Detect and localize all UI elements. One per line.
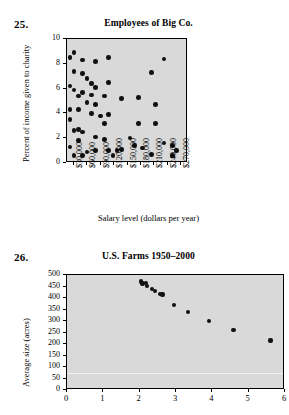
x-tick-label: $120,000 bbox=[116, 138, 124, 168]
x-tick-mark bbox=[66, 389, 67, 392]
y-tick-label: 450 bbox=[36, 282, 60, 290]
x-tick-label: $90,000 bbox=[103, 142, 111, 168]
x-tick-mark bbox=[175, 389, 176, 392]
x-tick-label: $240,000 bbox=[170, 138, 178, 168]
data-point bbox=[149, 70, 154, 75]
y-tick-mark bbox=[63, 332, 66, 333]
y-tick-mark bbox=[63, 366, 66, 367]
data-point bbox=[93, 102, 98, 107]
x-tick-label: 4 bbox=[196, 394, 226, 403]
x-tick-label: $30,000 bbox=[76, 142, 84, 168]
data-point bbox=[80, 90, 85, 95]
x-tick-label: 2 bbox=[124, 394, 154, 403]
x-tick-mark bbox=[102, 389, 103, 392]
data-point bbox=[207, 319, 211, 323]
data-point bbox=[80, 58, 85, 63]
y-tick-label: 6 bbox=[36, 84, 60, 92]
data-point bbox=[153, 289, 157, 293]
x-tick-mark bbox=[284, 389, 285, 392]
data-point bbox=[153, 121, 158, 126]
x-tick-mark bbox=[113, 162, 114, 165]
x-tick-label: $270,000 bbox=[183, 138, 191, 168]
y-tick-mark bbox=[63, 38, 66, 39]
data-point bbox=[119, 96, 124, 101]
x-tick-mark bbox=[86, 162, 87, 165]
data-point bbox=[89, 93, 94, 98]
data-point bbox=[136, 95, 141, 100]
x-tick-label: 6 bbox=[269, 394, 289, 403]
x-tick-mark bbox=[211, 389, 212, 392]
x-axis-title-25: Salary level (dollars per year) bbox=[56, 214, 241, 223]
y-tick-label: 0 bbox=[36, 158, 60, 166]
data-point bbox=[80, 130, 85, 135]
data-point bbox=[102, 94, 107, 99]
x-tick-mark bbox=[139, 389, 140, 392]
data-point bbox=[106, 55, 111, 60]
x-tick-label: $180,000 bbox=[143, 138, 151, 168]
data-point bbox=[145, 284, 149, 288]
y-tick-label: 500 bbox=[36, 270, 60, 278]
data-point bbox=[136, 121, 141, 126]
x-tick-mark bbox=[73, 162, 74, 165]
x-tick-mark bbox=[140, 162, 141, 165]
x-tick-label: $210,000 bbox=[156, 138, 164, 168]
data-point bbox=[68, 55, 73, 60]
x-tick-label: 0 bbox=[51, 394, 81, 403]
y-tick-label: 50 bbox=[36, 374, 60, 382]
x-tick-mark bbox=[167, 162, 168, 165]
chart-title-25: Employees of Big Co. bbox=[56, 18, 241, 28]
y-tick-mark bbox=[63, 355, 66, 356]
y-tick-label: 350 bbox=[36, 305, 60, 313]
y-tick-mark bbox=[63, 286, 66, 287]
y-tick-mark bbox=[63, 88, 66, 89]
data-point bbox=[68, 117, 73, 122]
y-tick-label: 150 bbox=[36, 351, 60, 359]
data-point bbox=[80, 71, 85, 76]
data-point bbox=[68, 145, 73, 150]
data-point bbox=[268, 338, 272, 342]
y-tick-label: 0 bbox=[36, 385, 60, 393]
y-tick-mark bbox=[63, 320, 66, 321]
y-tick-label: 400 bbox=[36, 293, 60, 301]
data-point bbox=[231, 328, 235, 332]
data-point bbox=[106, 80, 111, 85]
data-point bbox=[102, 121, 107, 126]
data-point bbox=[85, 76, 90, 81]
x-tick-label: 5 bbox=[233, 394, 263, 403]
y-tick-label: 4 bbox=[36, 108, 60, 116]
x-tick-mark bbox=[248, 389, 249, 392]
y-tick-mark bbox=[63, 309, 66, 310]
y-tick-mark bbox=[63, 274, 66, 275]
y-tick-mark bbox=[63, 112, 66, 113]
x-tick-mark bbox=[100, 162, 101, 165]
y-tick-mark bbox=[63, 343, 66, 344]
y-axis-title-26: Average size (acres) bbox=[22, 318, 31, 387]
data-point bbox=[93, 59, 98, 64]
y-tick-label: 100 bbox=[36, 362, 60, 370]
data-point bbox=[106, 112, 111, 117]
y-tick-label: 10 bbox=[36, 34, 60, 42]
data-point bbox=[93, 135, 98, 140]
y-tick-mark bbox=[63, 378, 66, 379]
y-axis-title-25: Percent of income given to charity bbox=[22, 45, 31, 162]
y-tick-label: 2 bbox=[36, 133, 60, 141]
x-tick-label: 3 bbox=[160, 394, 190, 403]
x-tick-label: $150,000 bbox=[130, 138, 138, 168]
exercise-number-25: 25. bbox=[14, 18, 28, 30]
y-tick-mark bbox=[63, 63, 66, 64]
y-tick-label: 8 bbox=[36, 59, 60, 67]
data-point bbox=[172, 303, 176, 307]
data-point bbox=[98, 114, 103, 119]
chart-title-26: U.S. Farms 1950–2000 bbox=[56, 251, 241, 261]
y-tick-label: 300 bbox=[36, 316, 60, 324]
scan-artifact-line bbox=[67, 373, 283, 374]
data-point bbox=[72, 69, 77, 74]
x-tick-label: $60,000 bbox=[89, 142, 97, 168]
data-point bbox=[93, 85, 98, 90]
data-point bbox=[76, 107, 81, 112]
exercise-number-26: 26. bbox=[14, 251, 28, 263]
data-point bbox=[186, 310, 190, 314]
y-tick-label: 250 bbox=[36, 328, 60, 336]
data-point bbox=[162, 57, 167, 62]
data-point bbox=[72, 50, 77, 55]
